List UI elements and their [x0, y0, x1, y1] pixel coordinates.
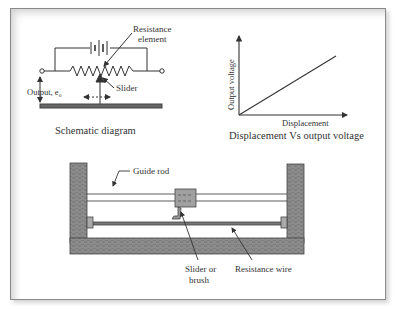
label-slider-brush-line1: Slider or	[185, 264, 216, 274]
wire-mount-left	[87, 217, 93, 228]
base-plate	[40, 104, 162, 108]
slider-arrowhead-icon	[96, 74, 104, 82]
caption-schematic: Schematic diagram	[55, 125, 136, 136]
label-resistance-wire: Resistance wire	[235, 264, 292, 274]
resistor-zigzag-icon	[70, 66, 133, 76]
label-resistance-line2: element	[138, 34, 167, 44]
resistance-wire	[92, 222, 282, 225]
construction-diagram	[70, 163, 304, 254]
terminal-left	[40, 69, 44, 73]
brush-contact	[172, 207, 181, 219]
caption-graph: Displacement Vs output voltage	[229, 130, 364, 141]
label-guide-rod: Guide rod	[133, 166, 170, 176]
graph-panel	[239, 36, 347, 115]
label-resistance-line1: Resistance	[133, 24, 172, 34]
left-wall	[70, 163, 87, 243]
base-block	[70, 238, 304, 254]
resistance-leader	[104, 33, 132, 66]
battery-icon	[91, 40, 107, 56]
terminal-right	[160, 69, 164, 73]
label-slider-brush-line2: brush	[189, 275, 209, 285]
graph-ylabel: Output voltage	[226, 59, 236, 110]
diagram-canvas: Resistance element Slider Output, eo Sch…	[0, 0, 395, 309]
right-wall	[287, 164, 304, 243]
graph-xlabel: Displacement	[282, 118, 329, 128]
wire-mount-right	[281, 217, 287, 228]
data-line	[239, 56, 336, 115]
slider-block	[175, 189, 196, 207]
guide-rod-leader	[113, 171, 130, 186]
slider-leader	[103, 78, 114, 88]
label-output: Output, eo	[27, 87, 62, 98]
label-slider: Slider	[116, 83, 138, 93]
